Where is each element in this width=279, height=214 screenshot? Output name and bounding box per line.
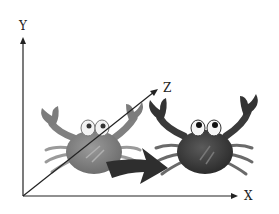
crab-after-icon — [149, 94, 258, 174]
x-axis-label: X — [244, 190, 253, 202]
y-axis-label: Y — [19, 20, 27, 32]
z-axis-label: Z — [163, 82, 171, 94]
translation-diagram: Y Z X — [0, 0, 279, 214]
